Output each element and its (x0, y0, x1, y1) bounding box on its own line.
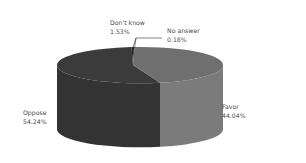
label-oppose-name: Oppose (23, 108, 47, 117)
label-no-answer-name: No answer (167, 26, 200, 35)
label-dont-know: Don't know 1.53% (110, 18, 145, 36)
label-favor: Favor 44.04% (222, 102, 246, 120)
label-favor-value: 44.04% (222, 111, 246, 120)
label-oppose-value: 54.24% (23, 117, 47, 126)
label-dont-know-value: 1.53% (110, 27, 145, 36)
label-no-answer: No answer 0.18% (167, 26, 200, 44)
pie-chart-3d (0, 0, 306, 163)
label-favor-name: Favor (222, 102, 246, 111)
leader-line-no-answer (135, 38, 163, 48)
label-dont-know-name: Don't know (110, 18, 145, 27)
label-oppose: Oppose 54.24% (23, 108, 47, 126)
label-no-answer-value: 0.18% (167, 35, 200, 44)
